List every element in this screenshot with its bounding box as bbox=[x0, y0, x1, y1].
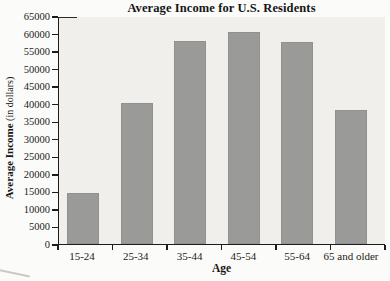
x-tick-label-65 and older: 65 and older bbox=[324, 250, 379, 262]
bars-container bbox=[59, 17, 385, 244]
y-tick-label-0: 0 bbox=[10, 239, 50, 251]
x-tick-label-45-54: 45-54 bbox=[231, 250, 257, 262]
y-tick-label-55000: 55000 bbox=[10, 46, 50, 58]
bar-25-34 bbox=[121, 103, 153, 244]
bar-55-64 bbox=[281, 42, 313, 244]
y-tick-mark bbox=[52, 192, 58, 193]
scan-artifact bbox=[0, 268, 30, 277]
y-tick-mark bbox=[52, 122, 58, 123]
y-tick-mark bbox=[52, 227, 58, 228]
y-tick-label-45000: 45000 bbox=[10, 81, 50, 93]
y-tick-label-20000: 20000 bbox=[10, 169, 50, 181]
y-tick-mark bbox=[52, 139, 58, 140]
x-tick-mark bbox=[112, 245, 113, 250]
y-tick-mark bbox=[52, 104, 58, 105]
chart-title: Average Income for U.S. Residents bbox=[58, 1, 385, 16]
y-axis-top-tick bbox=[58, 17, 77, 18]
x-tick-label-35-44: 35-44 bbox=[177, 250, 203, 262]
y-tick-mark bbox=[52, 157, 58, 158]
chart-page: Average Income for U.S. Residents Averag… bbox=[0, 0, 390, 281]
x-tick-mark bbox=[384, 245, 385, 250]
y-tick-label-35000: 35000 bbox=[10, 116, 50, 128]
y-tick-label-25000: 25000 bbox=[10, 151, 50, 163]
y-tick-label-10000: 10000 bbox=[10, 204, 50, 216]
x-tick-mark bbox=[221, 245, 222, 250]
y-tick-label-40000: 40000 bbox=[10, 99, 50, 111]
y-tick-mark bbox=[52, 16, 58, 17]
y-tick-label-5000: 5000 bbox=[10, 221, 50, 233]
x-tick-mark bbox=[166, 245, 167, 250]
y-tick-mark bbox=[52, 86, 58, 87]
y-tick-mark bbox=[52, 174, 58, 175]
y-tick-label-30000: 30000 bbox=[10, 134, 50, 146]
bar-45-54 bbox=[228, 32, 260, 245]
bar-65 and older bbox=[335, 110, 367, 244]
x-tick-label-25-34: 25-34 bbox=[123, 250, 149, 262]
x-tick-label-55-64: 55-64 bbox=[284, 250, 310, 262]
x-tick-mark bbox=[57, 245, 58, 250]
bar-35-44 bbox=[174, 41, 206, 244]
x-axis-title: Age bbox=[58, 262, 385, 274]
bar-15-24 bbox=[67, 193, 99, 245]
y-tick-label-60000: 60000 bbox=[10, 29, 50, 41]
x-tick-mark bbox=[275, 245, 276, 250]
y-tick-mark bbox=[52, 69, 58, 70]
y-tick-label-15000: 15000 bbox=[10, 186, 50, 198]
plot-area bbox=[58, 17, 385, 245]
y-tick-label-50000: 50000 bbox=[10, 64, 50, 76]
y-tick-mark bbox=[52, 209, 58, 210]
y-tick-label-65000: 65000 bbox=[10, 11, 50, 23]
x-tick-label-15-24: 15-24 bbox=[69, 250, 95, 262]
y-tick-mark bbox=[52, 51, 58, 52]
y-tick-mark bbox=[52, 34, 58, 35]
